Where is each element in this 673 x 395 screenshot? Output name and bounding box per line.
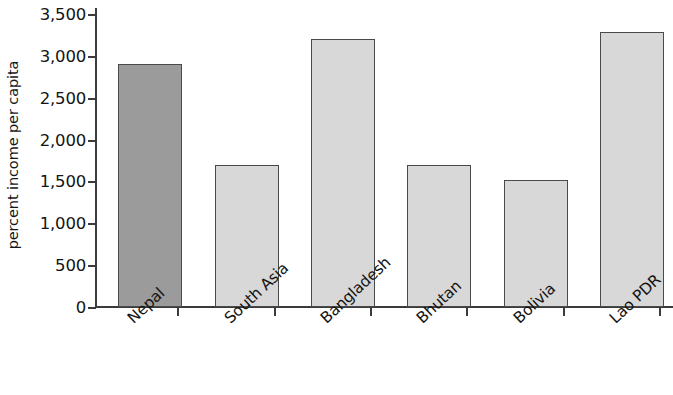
- bar-bolivia[interactable]: [504, 180, 568, 307]
- y-axis-tick-mark: [88, 181, 96, 183]
- y-axis-tick-label: 1,000: [20, 216, 86, 233]
- bar-lao-pdr[interactable]: [600, 32, 664, 307]
- y-axis-tick-label: 500: [20, 258, 86, 275]
- x-axis-category-labels: NepalSouth AsiaBangladeshBhutanBoliviaLa…: [95, 310, 673, 395]
- y-axis-tick-label: 2,000: [20, 132, 86, 149]
- y-axis-tick-label: 2,500: [20, 90, 86, 107]
- y-axis-title-text: percent income per capita: [5, 61, 21, 250]
- y-axis-tick-mark: [88, 307, 96, 309]
- y-axis-tick-mark: [88, 223, 96, 225]
- y-axis-tick-mark: [88, 14, 96, 16]
- y-axis-tick-mark: [88, 140, 96, 142]
- bar-nepal[interactable]: [118, 64, 182, 307]
- y-axis-tick-labels: 05001,0001,5002,0002,5003,0003,500: [20, 0, 86, 320]
- y-axis-tick-mark: [88, 265, 96, 267]
- y-axis-tick-label: 3,500: [20, 7, 86, 24]
- y-axis-tick-mark: [88, 98, 96, 100]
- y-axis-tick-label: 3,000: [20, 49, 86, 66]
- bar-bangladesh[interactable]: [311, 39, 375, 307]
- y-axis-line: [95, 8, 97, 308]
- y-axis-tick-mark: [88, 56, 96, 58]
- bar-chart: percent income per capita 05001,0001,500…: [0, 0, 673, 395]
- y-axis-tick-label: 1,500: [20, 174, 86, 191]
- y-axis-tick-label: 0: [20, 300, 86, 317]
